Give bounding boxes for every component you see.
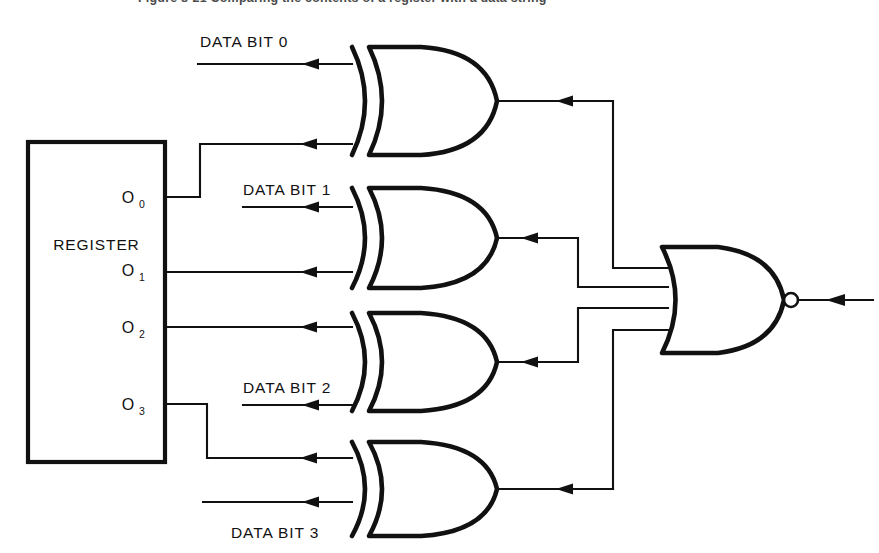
data-bit-2-label: DATA BIT 2 [243, 379, 331, 396]
arrowhead [300, 139, 317, 150]
wire-o1-to-xor1 [165, 267, 352, 278]
logic-circuit-diagram: REGISTER O 0 O 1 O 2 O 3 [0, 0, 879, 553]
arrowhead [556, 96, 573, 107]
figure-page: Figure 8-21 Comparing the contents of a … [0, 0, 879, 553]
xor-extra-arc [352, 188, 365, 288]
inversion-bubble-icon [784, 293, 798, 307]
arrowhead [300, 267, 317, 278]
data-bit-0-input: DATA BIT 0 [198, 33, 352, 70]
xor-body [369, 47, 497, 155]
arrowhead [300, 453, 317, 464]
xor-extra-arc [352, 442, 365, 536]
xor-gate-0[interactable] [352, 47, 613, 155]
xor-body [369, 188, 497, 288]
arrowhead [302, 202, 319, 213]
register-label: REGISTER [53, 236, 139, 253]
wire-xor3-to-nor [613, 330, 668, 489]
arrowhead [521, 357, 538, 368]
data-bit-2-input: DATA BIT 2 [243, 379, 352, 411]
xor-body [369, 442, 497, 536]
o2-letter: O [122, 319, 134, 336]
xor-extra-arc [352, 313, 365, 411]
arrowhead [556, 484, 573, 495]
o3-subscript: 3 [139, 405, 145, 417]
arrowhead [300, 322, 317, 333]
arrowhead [521, 233, 538, 244]
xor-gate-1[interactable] [352, 188, 578, 288]
o3-letter: O [122, 396, 134, 413]
arrowhead [826, 294, 845, 306]
wire-o3-to-xor3 [165, 404, 352, 464]
data-bit-3-input: DATA BIT 3 [203, 497, 352, 542]
data-bit-1-input: DATA BIT 1 [243, 181, 352, 213]
arrowhead [302, 400, 319, 411]
data-bit-1-label: DATA BIT 1 [243, 181, 331, 198]
wire-o2-to-xor2 [165, 322, 352, 333]
xor-gate-2[interactable] [352, 313, 578, 411]
data-bit-0-label: DATA BIT 0 [200, 33, 288, 50]
data-bit-3-label: DATA BIT 3 [231, 524, 319, 541]
arrowhead [302, 59, 319, 70]
o0-letter: O [122, 189, 134, 206]
o1-subscript: 1 [139, 271, 145, 283]
nor-gate-output[interactable] [662, 247, 873, 353]
o2-subscript: 2 [139, 328, 145, 340]
o1-letter: O [122, 262, 134, 279]
o0-subscript: 0 [139, 198, 145, 210]
arrowhead [302, 497, 319, 508]
xor-gate-3[interactable] [352, 442, 613, 536]
nor-body [662, 247, 784, 353]
wire-xor1-to-nor [578, 238, 668, 287]
xor-body [369, 313, 497, 411]
wire-xor0-to-nor [613, 101, 668, 268]
xor-extra-arc [352, 47, 365, 155]
wire-xor2-to-nor [578, 308, 668, 362]
